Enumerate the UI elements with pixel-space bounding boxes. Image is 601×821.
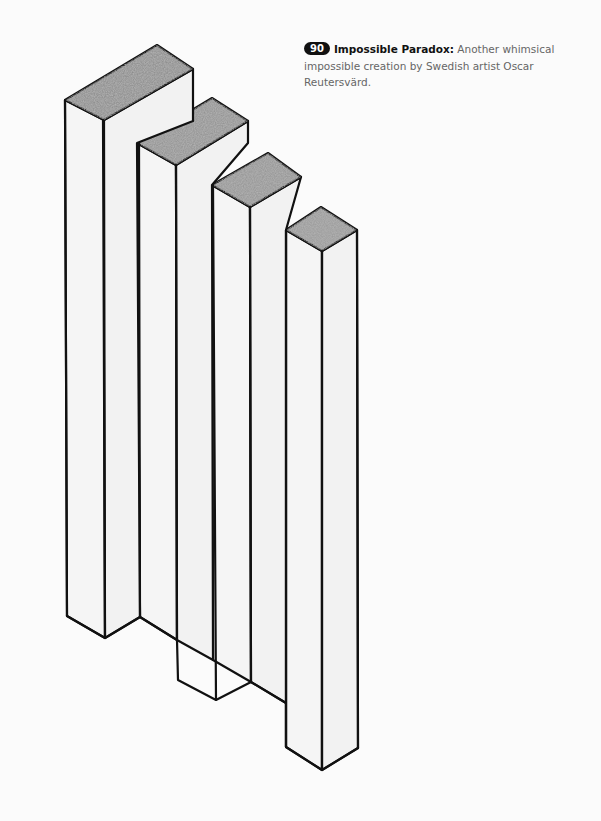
impossible-columns-illustration xyxy=(0,0,601,821)
